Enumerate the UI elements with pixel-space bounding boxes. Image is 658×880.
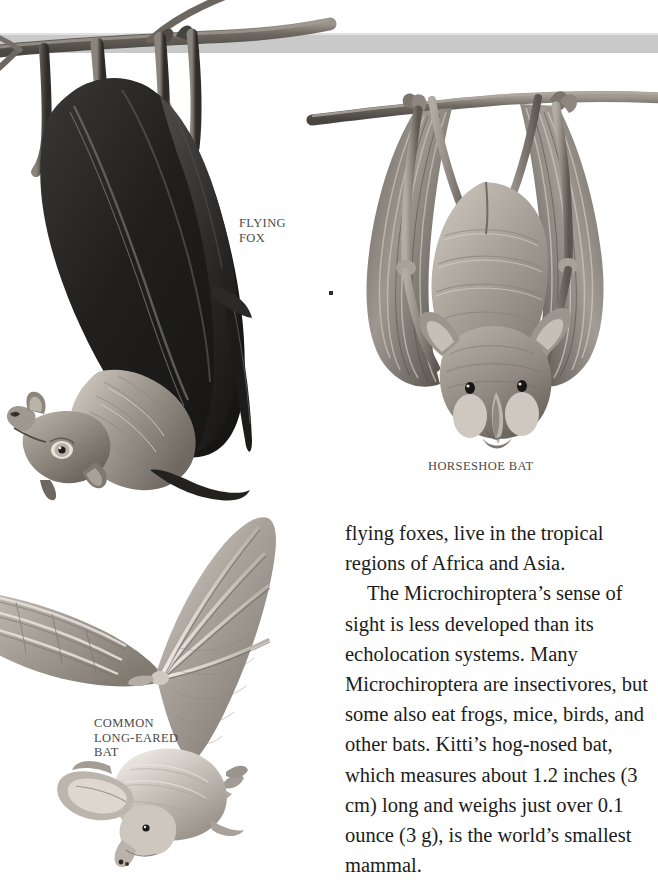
- page-root: FLYING FOX HORSESHOE BAT COMMON LONG-EAR…: [0, 0, 658, 880]
- illustration-flying-fox: [0, 0, 330, 540]
- print-speck-artifact: [329, 291, 333, 295]
- body-paragraph-2: The Microchiroptera’s sense of sight is …: [345, 578, 650, 880]
- body-text-column: flying foxes, live in the tropical regio…: [345, 518, 650, 880]
- illustration-common-long-eared-bat: [0, 520, 360, 880]
- caption-flying-fox: FLYING FOX: [239, 216, 286, 245]
- caption-common-long-eared-bat: COMMON LONG-EARED BAT: [94, 716, 179, 760]
- body-paragraph-1: flying foxes, live in the tropical regio…: [345, 518, 650, 578]
- illustration-horseshoe-bat: [318, 86, 658, 476]
- caption-horseshoe-bat: HORSESHOE BAT: [428, 459, 534, 474]
